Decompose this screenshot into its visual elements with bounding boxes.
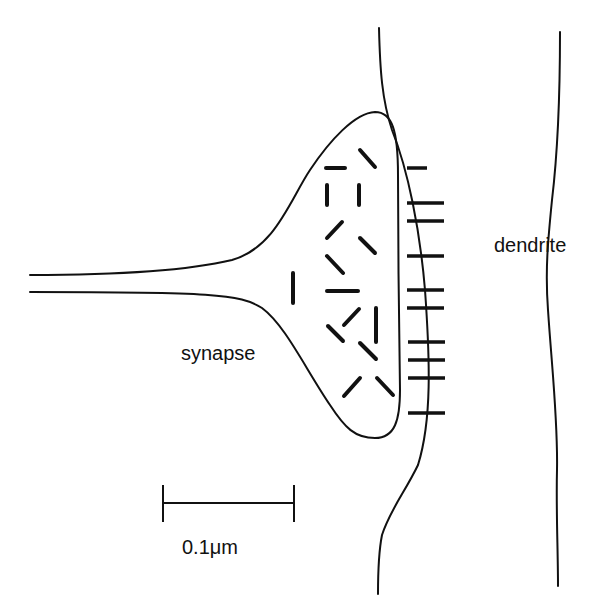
scale-bar — [163, 485, 294, 522]
vesicles — [293, 150, 393, 396]
dendrite-membrane — [547, 32, 560, 586]
receptors — [407, 168, 445, 413]
axon-bouton-outline — [30, 112, 400, 438]
postsynaptic-membrane — [378, 28, 429, 594]
scale-bar-label: 0.1μm — [182, 536, 238, 559]
dendrite-label: dendrite — [494, 234, 566, 257]
synapse-label: synapse — [181, 342, 256, 365]
synapse-diagram — [0, 0, 603, 607]
